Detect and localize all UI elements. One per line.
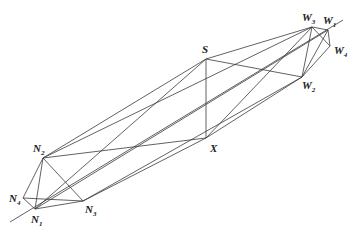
label-w1: W1 [323,14,336,29]
edge-s-w3 [206,27,312,59]
point-labels: N1N2N3N4SXW1W2W3W4 [8,11,348,228]
label-s: S [202,43,208,55]
label-w3: W3 [302,11,316,26]
label-x: X [209,142,218,154]
edges [10,20,343,222]
label-n2: N2 [32,142,45,157]
edge-w2-w3 [302,27,312,77]
edge-x-w3 [206,27,312,138]
edge-n1-w1 [35,30,328,209]
label-n1: N1 [30,213,42,228]
edge-x-w2 [206,77,302,138]
label-w4: W4 [334,44,348,59]
edge-w2-w4 [302,46,330,77]
edge-n3-x [83,138,206,201]
edge-n2-w3 [43,27,312,158]
edge-n2-s [43,59,206,158]
label-n3: N3 [84,203,97,218]
edge-n2-n3 [43,158,83,201]
label-n4: N4 [8,192,21,207]
edge-w1-w4 [328,30,330,46]
geometric-diagram: N1N2N3N4SXW1W2W3W4 [0,0,355,236]
edge-n3-w2 [83,77,302,201]
edge-n1-s [35,59,206,209]
label-w2: W2 [302,79,316,94]
axis-line [10,20,343,222]
edge-n2-x [43,138,206,158]
edge-n1-n4 [23,198,35,209]
